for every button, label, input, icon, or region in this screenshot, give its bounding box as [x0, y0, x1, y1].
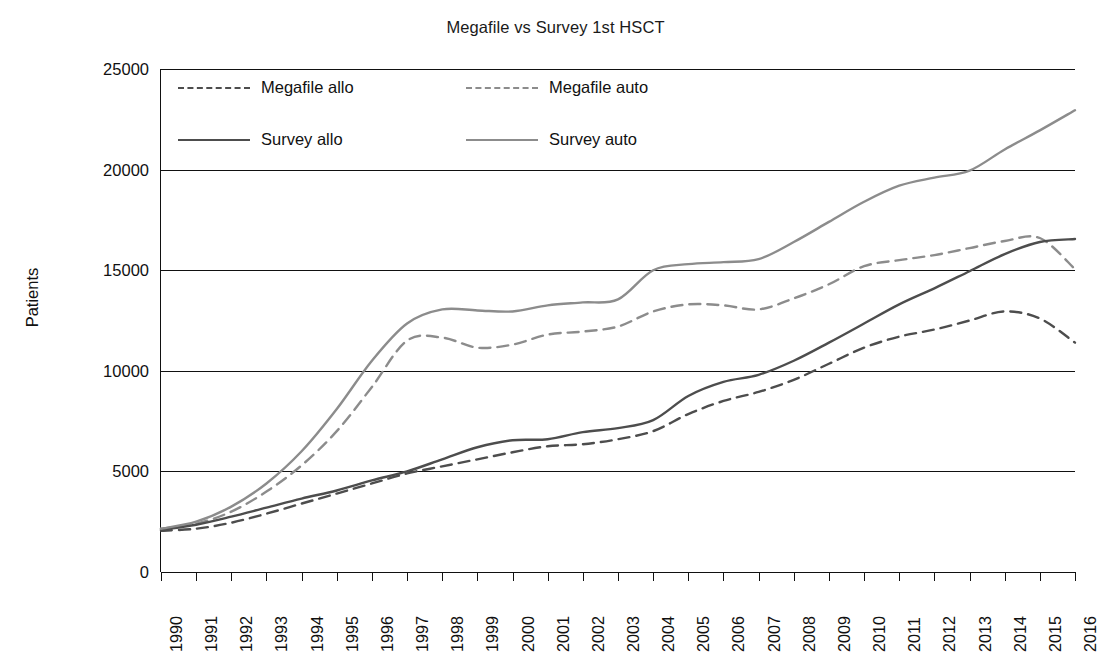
x-tick-label: 2000 — [519, 616, 538, 652]
x-tick-label: 2009 — [835, 616, 854, 652]
x-tick-label: 2013 — [976, 616, 995, 652]
x-tick-label: 2016 — [1081, 616, 1100, 652]
y-tick-label: 10000 — [103, 361, 149, 380]
legend-swatch — [466, 87, 538, 89]
x-tick-label: 2002 — [589, 616, 608, 652]
x-tick — [583, 572, 584, 581]
x-tick — [372, 572, 373, 581]
x-tick-label: 1995 — [343, 616, 362, 652]
series-line — [161, 110, 1075, 528]
y-tick-label: 15000 — [103, 261, 149, 280]
x-tick-label: 2004 — [659, 616, 678, 652]
x-tick-label: 2007 — [765, 616, 784, 652]
x-tick — [864, 572, 865, 581]
legend-item[interactable]: Survey allo — [178, 130, 343, 149]
series-line — [161, 239, 1075, 530]
x-tick — [618, 572, 619, 581]
legend-item[interactable]: Megafile allo — [178, 78, 354, 97]
x-tick — [1005, 572, 1006, 581]
legend-item[interactable]: Survey auto — [466, 130, 637, 149]
x-tick — [477, 572, 478, 581]
legend-label: Survey allo — [261, 130, 343, 149]
legend-label: Megafile auto — [549, 78, 648, 97]
x-tick — [794, 572, 795, 581]
x-tick-label: 2008 — [800, 616, 819, 652]
x-tick-label: 2015 — [1046, 616, 1065, 652]
x-tick-label: 2006 — [729, 616, 748, 652]
x-tick-label: 2001 — [554, 616, 573, 652]
x-axis-ticks — [161, 572, 1081, 584]
x-tick — [161, 572, 162, 581]
legend-swatch — [178, 87, 250, 89]
series-line — [161, 236, 1075, 528]
x-tick — [196, 572, 197, 581]
x-tick — [970, 572, 971, 581]
x-tick-label: 1996 — [378, 616, 397, 652]
legend-label: Megafile allo — [261, 78, 354, 97]
x-tick — [1075, 572, 1076, 581]
x-tick-label: 1994 — [308, 616, 327, 652]
legend-item[interactable]: Megafile auto — [466, 78, 648, 97]
y-tick-label: 20000 — [103, 160, 149, 179]
x-tick — [934, 572, 935, 581]
x-tick — [899, 572, 900, 581]
x-tick-label: 1992 — [237, 616, 256, 652]
x-tick-label: 2003 — [624, 616, 643, 652]
x-tick — [407, 572, 408, 581]
x-tick-label: 1993 — [272, 616, 291, 652]
x-tick-label: 1998 — [448, 616, 467, 652]
x-tick-label: 1990 — [167, 616, 186, 652]
x-tick — [688, 572, 689, 581]
y-tick-label: 5000 — [112, 462, 149, 481]
x-axis-tick-labels: 1990199119921993199419951996199719981999… — [161, 586, 1091, 671]
chart-figure: Megafile vs Survey 1st HSCT Patients 050… — [0, 0, 1111, 671]
x-tick — [302, 572, 303, 581]
x-tick — [231, 572, 232, 581]
legend-swatch — [178, 139, 250, 141]
x-tick — [548, 572, 549, 581]
x-tick-label: 2010 — [870, 616, 889, 652]
x-tick — [653, 572, 654, 581]
y-axis-label-wrapper: Patients — [14, 0, 48, 671]
x-tick-label: 2011 — [905, 617, 924, 652]
x-tick — [337, 572, 338, 581]
series-line — [161, 311, 1075, 530]
x-tick — [442, 572, 443, 581]
chart-legend: Megafile alloMegafile autoSurvey alloSur… — [178, 78, 738, 170]
y-tick-label: 25000 — [103, 60, 149, 79]
y-axis-label: Patients — [23, 238, 42, 358]
x-tick — [759, 572, 760, 581]
chart-title: Megafile vs Survey 1st HSCT — [0, 18, 1111, 37]
legend-label: Survey auto — [549, 130, 637, 149]
y-tick-label: 0 — [140, 563, 149, 582]
x-tick — [829, 572, 830, 581]
x-tick-label: 1991 — [202, 616, 221, 652]
x-tick — [266, 572, 267, 581]
x-tick — [723, 572, 724, 581]
x-tick-label: 1997 — [413, 616, 432, 652]
x-tick-label: 2012 — [940, 616, 959, 652]
x-tick-label: 1999 — [483, 616, 502, 652]
legend-swatch — [466, 139, 538, 141]
x-tick-label: 2005 — [694, 616, 713, 652]
x-tick — [513, 572, 514, 581]
x-tick — [1040, 572, 1041, 581]
x-tick-label: 2014 — [1011, 616, 1030, 652]
